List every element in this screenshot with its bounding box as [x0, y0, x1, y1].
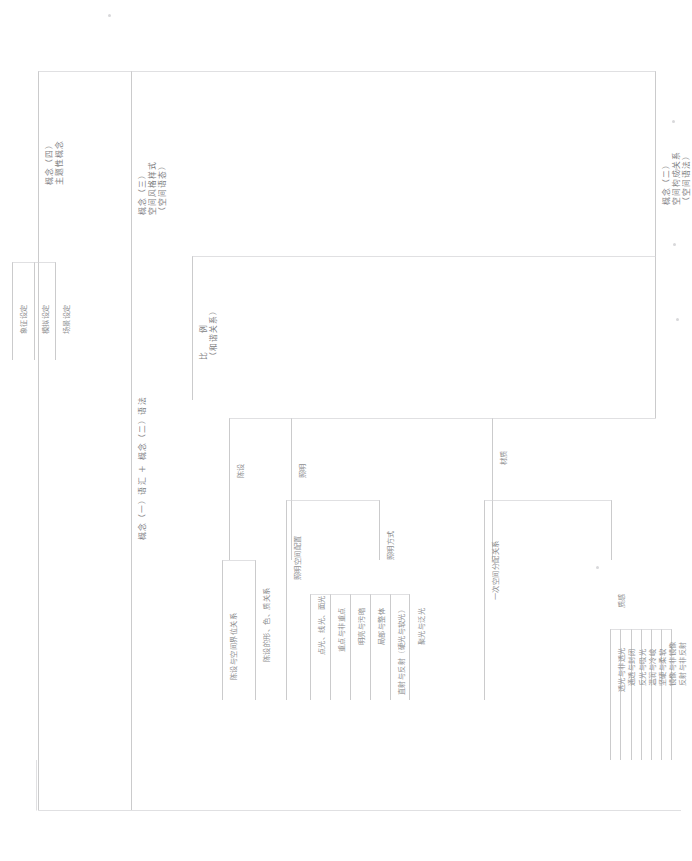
node-proportion-line1: 比 例: [199, 305, 209, 360]
scan-speckle: [108, 14, 111, 17]
leaf-lm-3[interactable]: 局部与整体: [377, 608, 386, 645]
leaf-lm-1-text: 聚光与泛光: [417, 608, 426, 645]
node-texture-text: 质感: [617, 593, 626, 608]
leaf-lm-3-text: 局部与整体: [377, 608, 386, 645]
node-primary-space-text: 一次空间分配关系: [491, 540, 500, 600]
leaf-lm-6[interactable]: 点光、线光、面光: [317, 595, 326, 655]
leaf-lm-6-text: 点光、线光、面光: [317, 595, 326, 655]
leaf-lm-5-text: 重点与非重点: [337, 607, 346, 652]
leaf-lm-1[interactable]: 聚光与泛光: [417, 608, 426, 645]
node-concept2[interactable]: 概念（二） 空间构成关系 （空间语法）: [662, 150, 692, 205]
leaf-c4-1-text: 场景设定: [62, 304, 71, 334]
node-proportion[interactable]: 比 例 （和谐关系）: [199, 305, 219, 360]
leaf-tx-7[interactable]: 透光与非透光: [617, 647, 626, 692]
leaf-tx-6[interactable]: 通透与封闭: [627, 649, 636, 686]
node-lighting-text: 照明: [298, 463, 307, 478]
node-concept3-line2: 空间风格样式: [148, 160, 158, 215]
leaf-tx-4[interactable]: 温润与冷峻: [648, 649, 657, 686]
scan-speckle: [673, 243, 676, 246]
leaf-lm-4-text: 明亮与污暗: [357, 608, 366, 645]
leaf-tx-1[interactable]: 反射与非反射: [678, 641, 687, 686]
node-concept-combo[interactable]: 概念（一）语汇 ＋ 概念（二）语法: [138, 396, 148, 540]
node-proportion-line2: （和谐关系）: [209, 305, 219, 360]
leaf-c4-3[interactable]: 象征设定: [19, 304, 28, 334]
leaf-furnishing-1-text: 陈设的形、色、质关系: [262, 588, 271, 663]
leaf-c4-2[interactable]: 模拟设定: [41, 304, 50, 334]
node-concept-combo-text: 概念（一）语汇 ＋ 概念（二）语法: [138, 396, 148, 540]
node-concept3-line1: 概念（三）: [138, 160, 148, 215]
node-concept2-line3: （空间语法）: [682, 150, 692, 205]
leaf-lm-2-text: 直射与反射（硬光与软光）: [397, 606, 406, 695]
node-lighting[interactable]: 照明: [298, 463, 307, 478]
leaf-tx-2-text: 镜像与非镜像: [668, 641, 677, 686]
leaf-c4-2-text: 模拟设定: [41, 304, 50, 334]
leaf-tx-3-text: 坚硬与柔软: [658, 649, 667, 686]
scan-speckle: [672, 120, 675, 123]
leaf-c4-1[interactable]: 场景设定: [62, 304, 71, 334]
node-texture[interactable]: 质感: [617, 593, 626, 608]
scan-speckle: [675, 168, 678, 171]
node-primary-space[interactable]: 一次空间分配关系: [491, 540, 500, 600]
leaf-tx-2[interactable]: 镜像与非镜像: [668, 641, 677, 686]
node-lighting-mode-text: 照明方式: [386, 530, 395, 560]
node-lighting-mode[interactable]: 照明方式: [386, 530, 395, 560]
node-furnishing-text: 陈设: [236, 463, 245, 478]
leaf-lm-5[interactable]: 重点与非重点: [337, 607, 346, 652]
scan-speckle: [596, 566, 599, 569]
node-concept3-line3: （空间语态）: [158, 160, 168, 215]
node-concept4-line1: 概念（四）: [45, 140, 55, 186]
leaf-lm-2[interactable]: 直射与反射（硬光与软光）: [397, 606, 406, 695]
scan-speckle: [676, 318, 679, 321]
node-concept4[interactable]: 概念（四） 主题性概念: [45, 140, 65, 186]
leaf-lm-4[interactable]: 明亮与污暗: [357, 608, 366, 645]
node-concept3[interactable]: 概念（三） 空间风格样式 （空间语态）: [138, 160, 168, 215]
leaf-tx-7-text: 透光与非透光: [617, 647, 626, 692]
leaf-c4-3-text: 象征设定: [19, 304, 28, 334]
leaf-tx-5-text: 反光与吸光: [638, 649, 647, 686]
leaf-furnishing-1[interactable]: 陈设的形、色、质关系: [262, 588, 271, 663]
node-lighting-layout[interactable]: 照明空间配置: [293, 535, 302, 580]
leaf-tx-4-text: 温润与冷峻: [648, 649, 657, 686]
node-furnishing[interactable]: 陈设: [236, 463, 245, 478]
leaf-tx-1-text: 反射与非反射: [678, 641, 687, 686]
node-lighting-layout-text: 照明空间配置: [293, 535, 302, 580]
leaf-furnishing-2-text: 陈设与空间界位关系: [229, 613, 238, 680]
leaf-tx-3[interactable]: 坚硬与柔软: [658, 649, 667, 686]
leaf-furnishing-2[interactable]: 陈设与空间界位关系: [229, 613, 238, 680]
node-concept4-line2: 主题性概念: [55, 140, 65, 186]
node-concept2-line1: 概念（二）: [662, 150, 672, 205]
leaf-tx-5[interactable]: 反光与吸光: [638, 649, 647, 686]
node-material-text: 材质: [499, 450, 508, 465]
node-concept2-line2: 空间构成关系: [672, 150, 682, 205]
leaf-tx-6-text: 通透与封闭: [627, 649, 636, 686]
node-material[interactable]: 材质: [499, 450, 508, 465]
